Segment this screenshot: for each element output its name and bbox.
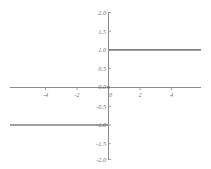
- x-tick-label-neg-2: -2: [74, 91, 79, 98]
- y-tick-label-2-0: 2.0: [98, 9, 107, 16]
- y-tick-label-neg-1-5: -1.5: [96, 140, 106, 147]
- y-tick-label-0-5: 0.5: [98, 65, 106, 72]
- origin-marker: [107, 86, 110, 89]
- y-tick-label-neg-0-5: -0.5: [96, 103, 106, 110]
- x-tick-label-2: 2: [138, 91, 141, 98]
- y-tick-label-1-0: 1.0: [98, 46, 107, 53]
- y-tick-label-1-5: 1.5: [98, 28, 106, 35]
- x-tick-label-4: 4: [170, 91, 173, 98]
- plot-canvas: 2.0 1.5 1.0 0.5 0.0 -0.5 -1.0 -1.5 -2.0 …: [0, 0, 211, 169]
- y-tick-label-neg-1-0: -1.0: [96, 121, 107, 128]
- plot-container: 2.0 1.5 1.0 0.5 0.0 -0.5 -1.0 -1.5 -2.0 …: [0, 0, 211, 169]
- x-tick-label-neg-4: -4: [43, 91, 48, 98]
- y-tick-label-0-0: 0.0: [98, 83, 107, 90]
- y-tick-label-neg-2-0: -2.0: [96, 156, 107, 163]
